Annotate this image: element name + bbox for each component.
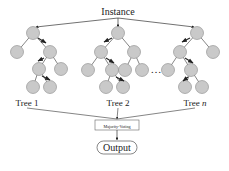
tree-label-2: Tree 2: [107, 98, 130, 108]
output-label: Output: [103, 142, 131, 153]
vote-edge-3: [117, 108, 195, 119]
decision-path-arrow-icon: [42, 76, 50, 80]
tree-node: [128, 46, 141, 59]
vote-edge-1: [27, 108, 117, 119]
tree-node: [185, 64, 198, 77]
tree-node: [117, 81, 130, 94]
tree-node: [136, 64, 149, 77]
tree-node: [100, 81, 113, 94]
tree-node: [207, 46, 220, 59]
tree-node: [44, 46, 57, 59]
tree-node: [179, 81, 192, 94]
instance-to-tree-edges: [36, 18, 194, 27]
tree-labels: Tree 1Tree 2Tree n: [16, 98, 207, 108]
tree-2: [82, 27, 149, 94]
tree-node: [27, 81, 40, 94]
tree-label-1: Tree 1: [16, 98, 39, 108]
tree-to-vote-edges: [27, 108, 195, 119]
tree-3: [162, 27, 220, 94]
tree-node: [174, 46, 187, 59]
decision-path-arrow-icon: [38, 58, 44, 61]
tree-node: [55, 63, 68, 76]
majority-voting-label: Majority-Voting: [103, 124, 131, 129]
tree-node: [82, 64, 95, 77]
random-forest-diagram: Instance … Tree 1Tree 2Tree n Majority-V…: [0, 0, 229, 171]
decision-path-arrow-icon: [116, 77, 124, 81]
tree-node: [33, 63, 46, 76]
decision-path-arrow-icon: [38, 38, 46, 43]
decision-path-arrow-icon: [182, 38, 190, 42]
vote-edge-2: [117, 108, 118, 119]
tree-node: [106, 64, 119, 77]
tree-node: [112, 27, 125, 40]
tree-node: [95, 46, 108, 59]
tree-label-3: Tree n: [184, 98, 207, 108]
ellipsis-label: …: [151, 63, 162, 75]
trees-group: [11, 27, 220, 94]
tree-node: [119, 64, 132, 77]
instance-edge-1: [36, 18, 118, 27]
tree-node: [44, 81, 57, 94]
tree-1: [11, 27, 68, 94]
instance-label: Instance: [101, 6, 135, 17]
tree-node: [162, 64, 175, 77]
tree-node: [27, 27, 40, 40]
tree-node: [196, 81, 209, 94]
tree-node: [11, 46, 24, 59]
tree-node: [191, 27, 204, 40]
instance-edge-3: [118, 18, 194, 27]
